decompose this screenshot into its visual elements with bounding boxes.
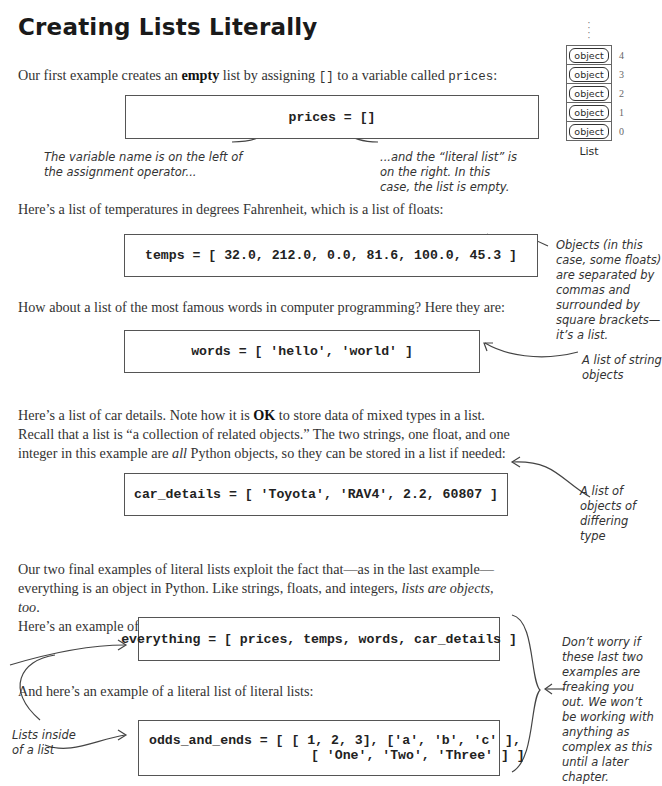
annotation-differing-type: A list of objects of differing type [580,484,652,544]
object-pill: object [569,48,608,63]
slot-index: 0 [619,126,624,137]
slot-index: 3 [619,69,624,80]
intro-text: to a variable called [334,67,449,83]
intro-code: [] [319,70,334,84]
code-temps: temps = [ 32.0, 212.0, 0.0, 81.6, 100.0,… [124,234,538,277]
list-slot: object4 [566,45,612,65]
paragraph-nested: And here’s an example of a literal list … [18,682,314,701]
object-pill: object [569,67,608,82]
intro-text: list by assigning [219,67,318,83]
list-slot: object3 [566,64,612,84]
code-words: words = [ 'hello', 'world' ] [124,330,480,373]
object-pill: object [569,86,608,101]
list-slot: object0 [566,121,612,141]
text: Recall that a list is “a collection of r… [18,425,538,444]
code-everything: everything = [ prices, temps, words, car… [138,617,500,661]
text: Python objects, so they can be stored in… [187,445,506,461]
list-slot: object2 [566,83,612,103]
list-diagram: ···· object4 object3 object2 object1 obj… [566,20,616,158]
list-slot: object1 [566,102,612,122]
text-italic: all [172,445,187,461]
text: . [36,599,40,615]
object-pill: object [569,105,608,120]
annotation-dont-worry: Don’t worry if these last two examples a… [562,635,660,785]
code-odds-and-ends: odds_and_ends = [ [ 1, 2, 3], ['a', 'b',… [138,720,500,776]
slot-index: 4 [619,50,624,61]
ellipsis-dots: ···· [566,20,612,46]
intro-bold: empty [181,67,219,83]
annotation-literal-list: ...and the “literal list” is on the righ… [380,150,520,195]
paragraph-car-details: Here’s a list of car details. Note how i… [18,406,538,463]
diagram-label: List [566,145,612,158]
code-car-details: car_details = [ 'Toyota', 'RAV4', 2.2, 6… [124,473,508,516]
code-line: odds_and_ends = [ [ 1, 2, 3], ['a', 'b',… [149,733,521,748]
intro-text: : [493,67,497,83]
slot-index: 2 [619,88,624,99]
annotation-lists-inside: Lists inside of a list [12,728,82,758]
intro-code: prices [448,70,493,84]
text: Our two final examples of literal lists … [18,560,518,579]
text-bold: OK [253,407,275,423]
code-line: [ 'One', 'Two', 'Three' ] ] [149,748,525,763]
paragraph-words: How about a list of the most famous word… [18,298,505,317]
paragraph-temps: Here’s a list of temperatures in degrees… [18,200,444,219]
annotation-string-objects: A list of string objects [582,353,662,383]
text: everything is an object in Python. Like … [18,580,401,596]
text: to store data of mixed types in a list. [275,407,485,423]
text: integer in this example are [18,445,172,461]
intro-paragraph: Our first example creates an empty list … [18,66,538,87]
code-prices: prices = [] [125,95,539,139]
page-title: Creating Lists Literally [18,14,318,40]
intro-text: Our first example creates an [18,67,181,83]
text: Here’s a list of car details. Note how i… [18,407,253,423]
annotation-objects-separated: Objects (in this case, some floats) are … [556,238,662,343]
slot-index: 1 [619,107,624,118]
annotation-variable-name: The variable name is on the left of the … [44,150,244,180]
object-pill: object [569,124,608,139]
